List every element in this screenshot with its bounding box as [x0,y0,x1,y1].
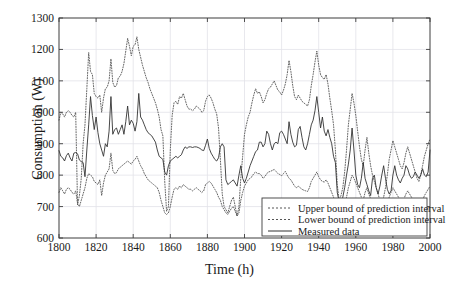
legend-label-1: Lower bound of prediction interval [298,214,446,225]
x-tick-label: 1840 [122,241,145,253]
x-tick-labels: 1800182018401860188019001920194019601980… [48,241,442,253]
chart-legend: Upper bound of prediction intervalLower … [262,198,446,237]
legend-label-2: Measured data [298,226,360,237]
chart-figure: 1800182018401860188019001920194019601980… [0,0,459,286]
x-tick-label: 1900 [233,241,256,253]
x-axis-title: Time (h) [0,262,459,278]
x-tick-label: 1920 [270,241,293,253]
x-tick-label: 1880 [196,241,219,253]
chart-plot-area: 1800182018401860188019001920194019601980… [0,0,459,286]
x-tick-label: 1980 [381,241,404,253]
x-tick-label: 1820 [85,241,108,253]
legend-label-0: Upper bound of prediction interval [298,203,444,214]
x-tick-label: 1940 [307,241,330,253]
x-tick-label: 1960 [344,241,367,253]
x-tick-label: 1860 [159,241,182,253]
x-tick-label: 2000 [419,241,442,253]
y-axis-title: Consumption (W) [30,19,46,239]
